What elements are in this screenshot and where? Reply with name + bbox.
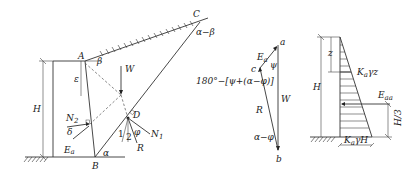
label-H3: H/3 xyxy=(393,109,403,127)
label-angle-expression: 180°−[ψ+(α−φ)] xyxy=(196,76,274,86)
force-polygon: a c b Ea ψ W R α−φ 180°−[ψ+(α−φ)] xyxy=(196,37,291,164)
label-delta: δ xyxy=(67,127,72,137)
label-D: D xyxy=(132,110,140,120)
label-alpha-minus-phi: α−φ xyxy=(254,132,275,142)
label-c: c xyxy=(251,64,256,74)
ground-hatch-right xyxy=(311,137,335,142)
label-alpha: α xyxy=(103,148,109,158)
label-z: z xyxy=(327,48,333,58)
label-phi: φ xyxy=(134,127,141,137)
label-psi: ψ xyxy=(270,60,278,70)
label-alpha-minus-beta: α−β xyxy=(196,27,215,37)
label-B: B xyxy=(91,161,99,171)
label-W-force: W xyxy=(281,94,291,104)
backfill-surface xyxy=(85,18,208,61)
label-W: W xyxy=(125,64,135,74)
pressure-hatch xyxy=(340,45,369,128)
slip-plane xyxy=(95,22,200,157)
backfill-hatch xyxy=(100,21,193,56)
ground-hatch xyxy=(24,157,48,162)
label-2: 2 xyxy=(126,132,132,142)
label-N1: N1 xyxy=(150,129,163,141)
label-Eaa: Eaa xyxy=(377,90,393,102)
label-R: R xyxy=(136,143,144,153)
wedge-figure: H ε xyxy=(24,9,215,171)
label-ea-force: Ea xyxy=(256,52,268,64)
label-N2: N2 xyxy=(65,113,79,125)
label-1: 1 xyxy=(118,129,124,139)
label-R-force: R xyxy=(255,105,263,115)
label-b: b xyxy=(276,154,282,164)
label-epsilon: ε xyxy=(74,74,79,84)
label-Kagz: Kaγz xyxy=(356,67,378,79)
label-C: C xyxy=(193,9,200,19)
label-beta: β xyxy=(96,56,102,66)
label-H-right: H xyxy=(312,82,321,92)
label-A: A xyxy=(77,51,85,61)
label-Ea: Ea xyxy=(63,145,75,156)
label-a: a xyxy=(280,37,285,47)
coulomb-diagram: H ε xyxy=(0,0,409,176)
pressure-distribution: H z H/3 xyxy=(310,34,403,147)
ea-arrow xyxy=(73,126,89,139)
label-H: H xyxy=(32,104,41,114)
